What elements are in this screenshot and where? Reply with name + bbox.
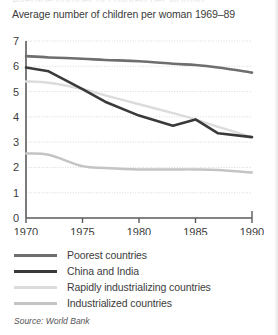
svg-text:1990: 1990 <box>240 226 264 235</box>
legend-item-rapidly-industrializing-countries: Rapidly industrializing countries <box>14 279 264 295</box>
svg-text:1980: 1980 <box>127 226 151 235</box>
svg-text:7: 7 <box>13 35 19 47</box>
svg-text:4: 4 <box>13 111 19 123</box>
y-axis-tick-labels: 01234567 <box>13 35 19 224</box>
plot-area: 01234567 19701975198019851990 <box>0 30 278 235</box>
svg-text:5: 5 <box>13 86 19 98</box>
legend-label-china-and-india: China and India <box>67 265 139 277</box>
chart-title: Average number of children per woman 196… <box>12 8 235 20</box>
legend-item-china-and-india: China and India <box>14 263 264 279</box>
legend-item-poorest-countries: Poorest countries <box>14 247 264 263</box>
svg-text:6: 6 <box>13 60 19 72</box>
svg-text:1985: 1985 <box>183 226 207 235</box>
source-note: Source: World Bank <box>14 316 90 326</box>
svg-text:1970: 1970 <box>14 226 38 235</box>
svg-text:1: 1 <box>13 187 19 199</box>
clipped-header-text: Average number of children per woman <box>12 0 212 2</box>
svg-text:3: 3 <box>13 136 19 148</box>
svg-text:2: 2 <box>13 161 19 173</box>
legend-item-industrialized-countries: Industrialized countries <box>14 295 264 311</box>
line-chart-svg: 01234567 19701975198019851990 <box>0 30 278 235</box>
legend-swatch-rapidly-industrializing-countries <box>14 286 57 289</box>
legend-label-industrialized-countries: Industrialized countries <box>67 297 172 309</box>
svg-text:0: 0 <box>13 212 19 224</box>
x-axis-tick-labels: 19701975198019851990 <box>14 226 264 235</box>
svg-text:1975: 1975 <box>70 226 94 235</box>
page-right-edge <box>274 0 278 335</box>
chart-legend: Poorest countries China and India Rapidl… <box>14 247 264 311</box>
legend-swatch-china-and-india <box>14 270 57 273</box>
chart-figure: Average number of children per woman Ave… <box>0 0 278 335</box>
legend-swatch-poorest-countries <box>14 254 57 257</box>
legend-label-rapidly-industrializing-countries: Rapidly industrializing countries <box>67 281 211 293</box>
series-lines-group <box>26 56 252 172</box>
legend-swatch-industrialized-countries <box>14 302 57 305</box>
legend-label-poorest-countries: Poorest countries <box>67 249 147 261</box>
